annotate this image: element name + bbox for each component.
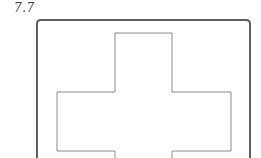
cross-shape <box>57 33 231 158</box>
outer-frame <box>37 20 250 158</box>
diagram-canvas <box>0 0 261 158</box>
